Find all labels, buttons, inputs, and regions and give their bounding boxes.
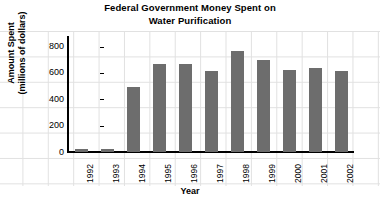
bar bbox=[231, 51, 244, 153]
x-tick-label: 1993 bbox=[111, 164, 121, 183]
y-tick-label: 200 bbox=[38, 121, 64, 130]
x-tick-label: 1998 bbox=[241, 164, 251, 183]
y-tick-label: 0 bbox=[38, 148, 64, 157]
bar bbox=[335, 71, 348, 152]
bar bbox=[283, 70, 296, 152]
y-axis-tick-labels: 0200400600800 bbox=[36, 36, 64, 153]
x-tick-label: 2001 bbox=[319, 164, 329, 183]
bar bbox=[75, 149, 88, 152]
bar bbox=[127, 87, 140, 152]
y-tick-label: 400 bbox=[38, 95, 64, 104]
x-tick-label: 2000 bbox=[293, 164, 303, 183]
x-tick-label: 1992 bbox=[85, 164, 95, 183]
bar bbox=[101, 149, 114, 152]
bar bbox=[153, 64, 166, 152]
x-tick-label: 1999 bbox=[267, 164, 277, 183]
x-tick-label: 2002 bbox=[345, 164, 355, 183]
bar bbox=[205, 71, 218, 152]
chart-page: Federal Government Money Spent on Water … bbox=[0, 0, 380, 200]
x-tick-label: 1995 bbox=[163, 164, 173, 183]
y-axis-label-line-1: Amount Spent bbox=[6, 0, 17, 112]
bar bbox=[179, 64, 192, 152]
x-tick-label: 1994 bbox=[137, 164, 147, 183]
chart-title-line-1: Federal Government Money Spent on bbox=[0, 2, 380, 15]
x-tick-label: 1997 bbox=[215, 164, 225, 183]
y-axis-label-line-2: (millions of dollars) bbox=[17, 0, 28, 112]
x-axis-label: Year bbox=[0, 186, 380, 196]
y-tick-label: 800 bbox=[38, 42, 64, 51]
bar bbox=[309, 68, 322, 152]
y-axis-label: Amount Spent (millions of dollars) bbox=[6, 0, 28, 112]
chart-title-line-2: Water Purification bbox=[0, 15, 380, 28]
bar bbox=[257, 60, 270, 152]
chart-title: Federal Government Money Spent on Water … bbox=[0, 2, 380, 27]
plot-area bbox=[68, 36, 354, 152]
y-tick-label: 600 bbox=[38, 68, 64, 77]
x-axis-tick-labels: 1992199319941995199619971998199920002001… bbox=[68, 155, 354, 187]
x-tick-label: 1996 bbox=[189, 164, 199, 183]
